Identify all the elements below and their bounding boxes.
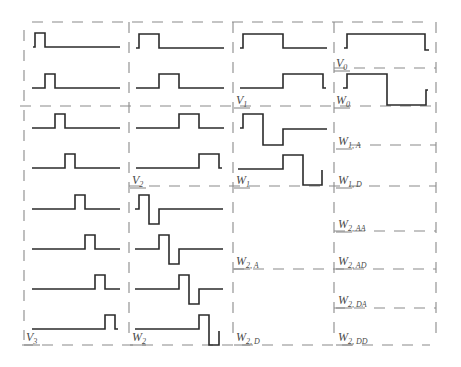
label-w2ad: W2, AD	[338, 254, 367, 270]
w2-basis-3-waveform	[135, 315, 219, 345]
w0-basis-waveform	[343, 74, 428, 105]
label-w1: W1	[236, 173, 250, 189]
v1-basis-1-waveform	[240, 74, 326, 88]
waveforms	[32, 33, 429, 345]
w1-basis-0-waveform	[240, 114, 327, 145]
v3-basis-6-waveform	[32, 275, 120, 289]
v1-basis-0-waveform	[240, 34, 327, 48]
v3-basis-1-waveform	[32, 74, 120, 88]
label-w1d: W1, D	[338, 173, 362, 189]
label-w2aa: W2, AA	[338, 217, 366, 233]
diagram-canvas: V0W0V1W1, AW1W1, DV2W2, AAW2, AW2, ADW2,…	[0, 0, 461, 367]
v3-basis-5-waveform	[32, 235, 120, 249]
label-w1a: W1, A	[338, 134, 361, 150]
w1-basis-1-waveform	[238, 155, 322, 185]
label-w2: W2	[132, 330, 146, 346]
label-v1: V1	[236, 93, 247, 109]
label-v0: V0	[336, 56, 347, 72]
v2-basis-0-waveform	[136, 34, 224, 48]
v2-basis-2-waveform	[136, 114, 224, 128]
v2-basis-3-waveform	[136, 154, 222, 168]
v0-basis-waveform	[344, 34, 429, 50]
v3-basis-4-waveform	[32, 195, 120, 209]
label-w2da: W2, DA	[338, 293, 367, 309]
label-w2dd: W2, DD	[338, 330, 368, 346]
v3-basis-2-waveform	[32, 114, 120, 128]
label-w2a: W2, A	[236, 254, 259, 270]
w2-basis-0-waveform	[135, 195, 223, 224]
w2-basis-1-waveform	[135, 235, 223, 264]
v3-basis-7-waveform	[32, 315, 118, 329]
grid-dashed-lines	[20, 22, 436, 345]
label-w0: W0	[336, 93, 350, 109]
w2-basis-2-waveform	[135, 275, 223, 304]
v3-basis-3-waveform	[32, 154, 120, 168]
v3-basis-0-waveform	[33, 33, 120, 47]
wavelet-packet-diagram: V0W0V1W1, AW1W1, DV2W2, AAW2, AW2, ADW2,…	[0, 0, 461, 367]
label-w2d: W2, D	[236, 330, 260, 346]
label-v3: V3	[26, 330, 37, 346]
label-v2: V2	[132, 173, 143, 189]
v2-basis-1-waveform	[136, 74, 224, 88]
